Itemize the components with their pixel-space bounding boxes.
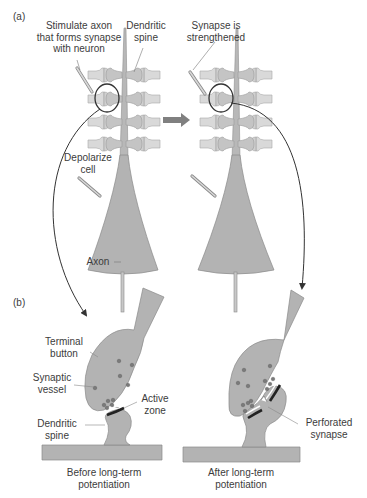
label-line: potentiation bbox=[57, 479, 151, 491]
label-terminal-button: Terminal button bbox=[40, 336, 88, 359]
label-line: potentiation bbox=[196, 479, 286, 491]
label-dendritic-spine: Dendritic spine bbox=[124, 20, 168, 43]
label-synapse-strengthened: Synapse is strengthened bbox=[182, 20, 250, 43]
label-line: Active bbox=[137, 393, 173, 405]
caption-after-ltp: After long-term potentiation bbox=[196, 467, 286, 490]
neuron-after bbox=[190, 28, 274, 312]
label-line: Dendritic bbox=[124, 20, 168, 32]
label-active-zone: Active zone bbox=[137, 393, 173, 416]
label-line: vessel bbox=[30, 384, 74, 396]
label-line: spine bbox=[124, 32, 168, 44]
label-line: Dendritic bbox=[33, 418, 81, 430]
panel-a-tag: (a) bbox=[13, 11, 25, 22]
label-line: spine bbox=[33, 430, 81, 442]
label-line: Terminal bbox=[40, 336, 88, 348]
synapse-after bbox=[183, 290, 304, 462]
caption-before-ltp: Before long-term potentiation bbox=[57, 467, 151, 490]
label-line: After long-term bbox=[196, 467, 286, 479]
label-line: synapse bbox=[300, 429, 358, 441]
panel-b-tag: (b) bbox=[13, 297, 25, 308]
label-line: Synapse is bbox=[182, 20, 250, 32]
label-line: with neuron bbox=[26, 43, 132, 55]
label-line: Depolarize bbox=[63, 152, 113, 164]
label-line: that forms synapse bbox=[26, 32, 132, 44]
label-perforated-synapse: Perforated synapse bbox=[300, 417, 358, 440]
label-stimulate-axon: Stimulate axon that forms synapse with n… bbox=[26, 20, 132, 55]
label-line: cell bbox=[63, 164, 113, 176]
label-line: zone bbox=[137, 405, 173, 417]
label-line: strengthened bbox=[182, 32, 250, 44]
label-axon: Axon bbox=[82, 256, 114, 268]
transition-arrow bbox=[163, 113, 190, 127]
label-dendritic-spine-b: Dendritic spine bbox=[33, 418, 81, 441]
label-line: Perforated bbox=[300, 417, 358, 429]
label-line: button bbox=[40, 348, 88, 360]
label-line: Stimulate axon bbox=[26, 20, 132, 32]
label-synaptic-vessel: Synaptic vessel bbox=[30, 372, 74, 395]
label-line: Before long-term bbox=[57, 467, 151, 479]
label-line: Synaptic bbox=[30, 372, 74, 384]
label-depolarize-cell: Depolarize cell bbox=[63, 152, 113, 175]
